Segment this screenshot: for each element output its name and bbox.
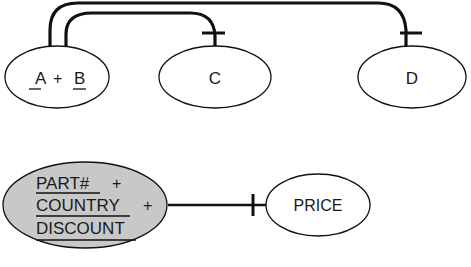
node-label-a: A xyxy=(35,69,47,88)
node-c: C xyxy=(159,46,271,108)
key-part-country: COUNTRY xyxy=(36,196,120,215)
node-label-d: D xyxy=(406,69,418,88)
node-d: D xyxy=(358,46,466,108)
plus-sign: + xyxy=(112,175,121,192)
arc-ab-to-d xyxy=(50,3,406,46)
key-part-part: PART# xyxy=(36,174,90,193)
dependency-diagram: A + B C D PART# + COUNTRY + DISCOUNT PRI… xyxy=(0,0,471,267)
node-a-plus-b: A + B xyxy=(5,46,109,108)
node-composite-key: PART# + COUNTRY + DISCOUNT xyxy=(3,162,167,248)
plus-sign: + xyxy=(53,70,62,87)
plus-sign: + xyxy=(143,197,152,214)
arc-ab-to-c xyxy=(66,13,215,46)
node-label-price: PRICE xyxy=(294,197,343,214)
node-label-b: B xyxy=(74,69,85,88)
node-price: PRICE xyxy=(266,174,370,236)
key-part-discount: DISCOUNT xyxy=(36,219,125,238)
node-label-c: C xyxy=(209,69,221,88)
